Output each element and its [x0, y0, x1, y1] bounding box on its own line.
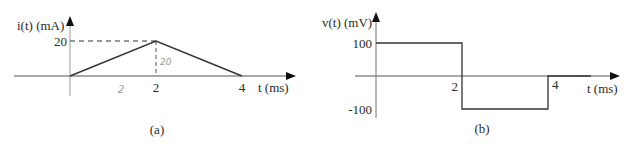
x-axis-arrow-icon: [610, 72, 620, 80]
handwritten-annotation: 2: [118, 84, 124, 95]
x-axis-arrow-icon: [286, 72, 296, 80]
x-axis-label: t (ms): [587, 81, 618, 96]
chart-caption: (b): [474, 121, 489, 136]
y-axis-arrow-icon: [66, 16, 74, 26]
handwritten-annotation: 20: [160, 57, 172, 67]
y-tick-label: 100: [353, 36, 373, 51]
x-axis-label: t (ms): [258, 80, 289, 95]
x-tick-label: 2: [452, 79, 459, 94]
y-axis-arrow-icon: [372, 12, 380, 22]
x-tick-label: 4: [552, 77, 559, 92]
x-tick-label: 4: [239, 80, 246, 95]
y-tick-label: 20: [54, 34, 67, 49]
chart-caption: (a): [150, 122, 164, 137]
figure: i(t) (mA) 20 2 4 t (ms) 2 20 (a) v(t) (m…: [0, 0, 632, 144]
chart-b: v(t) (mV) 100 -100 2 4 t (ms) (b): [322, 12, 620, 136]
y-axis-label: i(t) (mA): [17, 18, 64, 33]
chart-a: i(t) (mA) 20 2 4 t (ms) 2 20 (a): [14, 16, 296, 137]
y-axis-label: v(t) (mV): [322, 15, 372, 30]
y-tick-label: -100: [348, 102, 372, 117]
x-tick-label: 2: [153, 80, 160, 95]
